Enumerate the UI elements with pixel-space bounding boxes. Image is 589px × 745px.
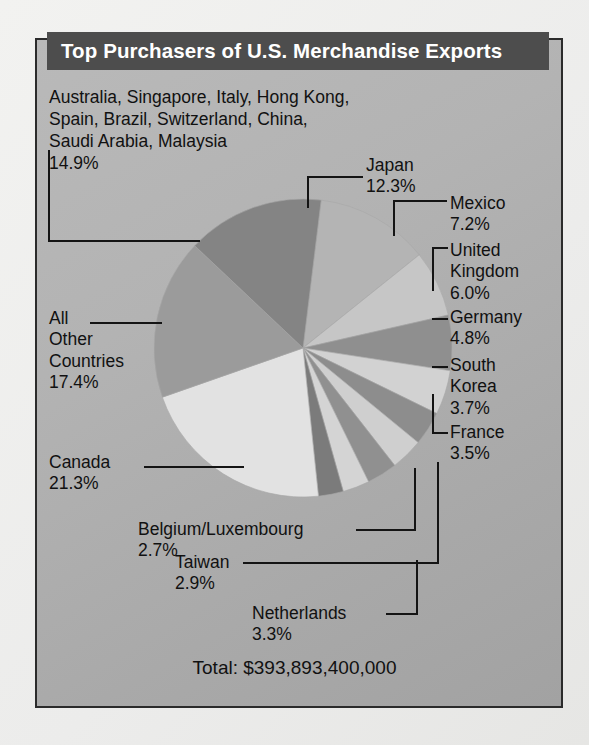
leader-line-france-vertical: [432, 394, 434, 434]
leader-line-uk-vertical: [432, 247, 434, 291]
leader-line-taiwan-horizontal: [243, 562, 439, 564]
leader-line-mexico-vertical: [393, 200, 395, 236]
label-japan: Japan 12.3%: [366, 155, 416, 198]
label-france: France 3.5%: [450, 422, 504, 465]
leader-line-france-horizontal: [432, 432, 448, 434]
label-all-other-countries: All Other Countries 17.4%: [49, 308, 169, 393]
pie-svg: [153, 198, 453, 498]
label-taiwan: Taiwan 2.9%: [175, 552, 229, 595]
label-united-kingdom: United Kingdom 6.0%: [450, 240, 519, 304]
label-south-korea: South Korea 3.7%: [450, 355, 497, 419]
leader-line-netherlands-vertical: [416, 560, 418, 614]
title-banner: Top Purchasers of U.S. Merchandise Expor…: [47, 32, 549, 70]
leader-line-belgium-horizontal: [356, 529, 416, 531]
label-canada: Canada 21.3%: [49, 452, 110, 495]
total-label: Total: $393,893,400,000: [0, 657, 589, 679]
figure-root: Top Purchasers of U.S. Merchandise Expor…: [0, 0, 589, 745]
page-title: Top Purchasers of U.S. Merchandise Expor…: [61, 39, 502, 63]
leader-line-netherlands-horizontal: [386, 613, 418, 615]
label-combined-countries: Australia, Singapore, Italy, Hong Kong, …: [49, 86, 369, 174]
pie-chart: [153, 198, 453, 498]
leader-line-japan-vertical: [307, 176, 309, 208]
leader-line-combined-horizontal: [48, 240, 200, 242]
label-mexico: Mexico 7.2%: [450, 193, 505, 236]
leader-line-mexico-horizontal: [393, 200, 447, 202]
leader-line-canada-horizontal: [144, 466, 244, 468]
label-germany: Germany 4.8%: [450, 307, 522, 350]
leader-line-skorea-horizontal: [432, 366, 448, 368]
leader-line-belgium-vertical: [414, 468, 416, 530]
leader-line-taiwan-vertical: [437, 462, 439, 563]
leader-line-japan-horizontal: [307, 176, 363, 178]
pie-slice-group: [154, 199, 452, 497]
leader-line-uk-horizontal: [432, 247, 448, 249]
label-netherlands: Netherlands 3.3%: [252, 603, 346, 646]
leader-line-germany-horizontal: [432, 318, 448, 320]
